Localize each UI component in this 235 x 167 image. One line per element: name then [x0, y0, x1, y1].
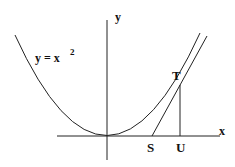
point-T-label: T	[172, 68, 181, 83]
x-axis-label: x	[219, 124, 225, 138]
curve-label: y = x	[35, 51, 60, 65]
point-U-label: U	[176, 140, 186, 155]
curve-exponent: 2	[70, 47, 75, 57]
point-S-label: S	[147, 140, 154, 155]
parabola-tangent-diagram: y = x 2 y x T S U	[0, 0, 235, 167]
y-axis-label: y	[115, 10, 121, 24]
